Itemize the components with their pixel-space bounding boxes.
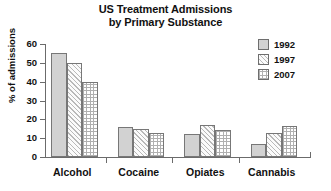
bar-cannabis-1992 — [251, 144, 267, 157]
y-axis-tick-label: 0 — [17, 152, 37, 162]
y-axis-tick-label: 10 — [17, 133, 37, 143]
bar-opiates-1992 — [184, 134, 200, 157]
bar-cannabis-1997 — [266, 133, 282, 157]
bar-cocaine-1997 — [133, 129, 149, 157]
x-axis-label-cocaine: Cocaine — [106, 166, 173, 178]
y-axis-tick-label: 20 — [17, 114, 37, 124]
bar-cocaine-1992 — [118, 127, 134, 157]
x-axis-line — [40, 157, 311, 158]
y-axis-tick-label: 60 — [17, 39, 37, 49]
bar-cocaine-2007 — [149, 133, 165, 157]
bar-opiates-2007 — [215, 130, 231, 157]
y-axis-title: % of admissions — [6, 11, 17, 121]
y-axis-tick-label: 50 — [17, 58, 37, 68]
bar-alcohol-1992 — [51, 53, 67, 157]
x-axis-label-cannabis: Cannabis — [239, 166, 306, 178]
x-axis-separator — [239, 157, 240, 163]
bar-alcohol-2007 — [82, 82, 98, 157]
y-axis-tick-label: 30 — [17, 96, 37, 106]
x-axis-separator — [172, 157, 173, 163]
bar-chart: US Treatment Admissions by Primary Subst… — [0, 0, 331, 191]
plot-area — [45, 44, 311, 157]
chart-title-line-2: by Primary Substance — [0, 16, 331, 29]
x-axis-label-alcohol: Alcohol — [39, 166, 106, 178]
x-axis-separator — [106, 157, 107, 163]
x-axis-label-opiates: Opiates — [172, 166, 239, 178]
chart-title-line-1: US Treatment Admissions — [0, 3, 331, 16]
y-axis-tick-label: 40 — [17, 77, 37, 87]
bar-opiates-1997 — [200, 125, 216, 157]
chart-title: US Treatment Admissions by Primary Subst… — [0, 3, 331, 29]
bar-cannabis-2007 — [282, 126, 298, 157]
bar-alcohol-1997 — [67, 63, 83, 157]
